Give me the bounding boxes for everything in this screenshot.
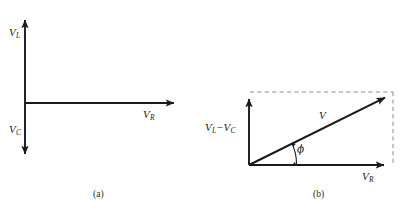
label-vc: VC — [9, 124, 21, 137]
phasor-diagram-figure: VL VC VR (a) VL−VC V VR ϕ (b) — [0, 0, 402, 209]
panel-b-group — [249, 92, 393, 166]
label-vr-panel-a: VR — [143, 109, 155, 122]
label-vr-panel-b: VR — [362, 171, 374, 184]
angle-phi-arc — [292, 144, 297, 166]
label-phi-angle: ϕ — [297, 144, 304, 155]
minus-operator: − — [216, 121, 223, 133]
label-vl: VL — [9, 27, 20, 40]
caption-panel-b: (b) — [313, 190, 324, 200]
panel-a-group — [25, 20, 174, 154]
diagram-canvas — [0, 0, 402, 209]
label-vl-minus-vc: VL−VC — [205, 122, 235, 135]
caption-panel-a: (a) — [93, 190, 104, 200]
vector-v-resultant-arrow — [249, 98, 385, 165]
label-v-resultant: V — [319, 110, 326, 121]
